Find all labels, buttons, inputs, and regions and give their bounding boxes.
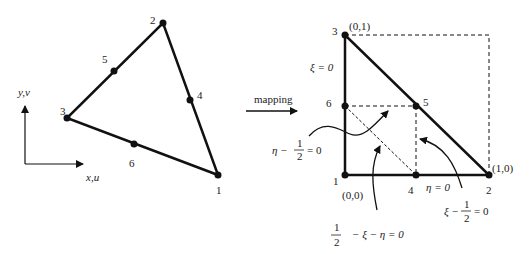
eta-half-rhs: = 0 (307, 144, 322, 156)
nat-node-3-coord: (0,1) (349, 20, 370, 33)
nat-node-2-coord: (1,0) (492, 162, 513, 175)
node-2-label: 2 (150, 14, 156, 26)
nat-node-2-label: 2 (486, 184, 492, 196)
equations: ξ = 0 η = 0 η − 1 2 = 0 ξ − 1 2 = 0 1 2 … (272, 61, 489, 248)
xi-half-den: 2 (464, 212, 470, 224)
xi-half-num: 1 (464, 198, 470, 210)
node-4-dot (187, 97, 194, 104)
node-4-label: 4 (197, 89, 203, 101)
eta-half-arrow-icon (309, 111, 388, 136)
node-6-label: 6 (129, 157, 135, 169)
node-1-dot (215, 172, 222, 179)
xi-half-rhs: = 0 (474, 205, 489, 217)
global-triangle: 1 2 3 4 5 6 (60, 14, 222, 196)
mapping-label: mapping (254, 93, 293, 105)
eta-zero-label: η = 0 (426, 181, 450, 193)
node-6-dot (131, 141, 138, 148)
nat-node-6-label: 6 (326, 97, 332, 109)
diag-arrow-icon (373, 146, 380, 210)
diag-den: 2 (334, 236, 340, 248)
node-5-dot (111, 68, 118, 75)
diag-num: 1 (334, 221, 340, 233)
x-axis-label: x,u (85, 171, 100, 183)
natural-triangle: 1 (0,0) 2 (1,0) 3 (0,1) 4 5 6 (326, 20, 513, 202)
node-5-label: 5 (102, 53, 108, 65)
node-2-dot (160, 20, 167, 27)
mapping-arrow: mapping (246, 93, 297, 111)
diag-rhs: − ξ − η = 0 (352, 228, 404, 241)
y-axis-label: y,v (17, 86, 30, 98)
diagram-canvas: 1 2 3 4 5 6 y,v x,u mapping 1 (0,0) 2 (0, 0, 532, 254)
eta-half-lhs: η − (272, 144, 288, 156)
global-axes: y,v x,u (17, 86, 100, 183)
eta-half-num: 1 (297, 137, 303, 149)
xi-zero-label: ξ = 0 (310, 61, 334, 74)
node-3-label: 3 (60, 105, 66, 117)
nat-node-4-label: 4 (408, 184, 414, 196)
nat-node-1-coord: (0,0) (342, 189, 363, 202)
node-1-label: 1 (216, 184, 222, 196)
nat-node-5-label: 5 (423, 96, 429, 108)
xi-half-lhs: ξ − (444, 205, 459, 218)
eta-half-den: 2 (297, 150, 303, 162)
nat-node-1-label: 1 (333, 175, 339, 187)
nat-node-3-label: 3 (332, 25, 338, 37)
